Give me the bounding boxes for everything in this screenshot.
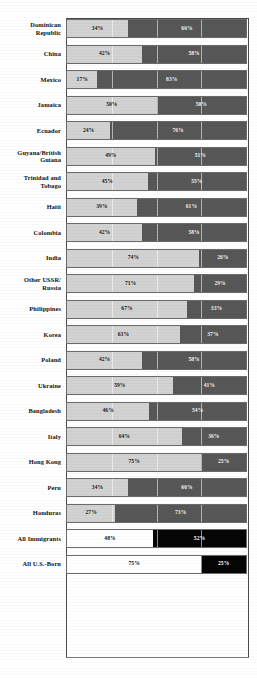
bar-segment-left-value: 17% <box>77 77 88 83</box>
row-label-line: Other USSR/ <box>0 276 61 284</box>
stacked-bar: 45%55% <box>66 172 247 191</box>
bar-segment-right-value: 73% <box>175 510 186 516</box>
axis-baseline <box>66 657 249 658</box>
bar-segment-right-value: 66% <box>181 26 192 32</box>
row-label-line: Dominican <box>0 21 61 29</box>
bar-segment-right: 55% <box>148 173 246 190</box>
bar-segment-left: 34% <box>67 20 128 37</box>
row-label-line: Honduras <box>0 509 61 517</box>
row-label: Colombia <box>0 229 66 237</box>
stacked-bar: 59%41% <box>66 376 247 395</box>
row-label-line: Philippines <box>0 305 61 313</box>
row-label-line: Tobago <box>0 182 61 190</box>
bar-segment-right-value: 36% <box>208 434 219 440</box>
chart-row: Ecuador24%76% <box>0 118 257 144</box>
chart-row: Italy64%36% <box>0 424 257 450</box>
chart-row: Bangladesh46%54% <box>0 399 257 425</box>
bar-segment-left: 49% <box>67 148 155 165</box>
stacked-bar: 42%58% <box>66 45 247 64</box>
stacked-bar: 50%50% <box>66 96 247 115</box>
bar-segment-right-value: 29% <box>214 281 225 287</box>
bar-segment-left: 42% <box>67 352 142 369</box>
row-label-line: Russia <box>0 284 61 292</box>
stacked-bar: 49%51% <box>66 147 247 166</box>
bar-segment-left-value: 42% <box>99 230 110 236</box>
row-label-line: Poland <box>0 356 61 364</box>
row-label: Peru <box>0 484 66 492</box>
bar-segment-left-value: 63% <box>118 332 129 338</box>
bar-segment-left: 34% <box>67 479 128 496</box>
row-label-line: Peru <box>0 484 61 492</box>
bar-segment-right-value: 83% <box>166 77 177 83</box>
chart-row: Other USSR/Russia71%29% <box>0 271 257 297</box>
bar-segment-left-value: 71% <box>125 281 136 287</box>
bar-segment-right: 33% <box>187 301 246 318</box>
bar-segment-right: 26% <box>199 250 246 267</box>
bar-segment-left-value: 45% <box>102 179 113 185</box>
row-label-line: Italy <box>0 433 61 441</box>
bar-segment-left: 74% <box>67 250 199 267</box>
chart-row: Korea63%37% <box>0 322 257 348</box>
bar-segment-left-value: 39% <box>96 204 107 210</box>
chart-row: Mexico17%83% <box>0 67 257 93</box>
chart-row: Philippines67%33% <box>0 297 257 323</box>
row-label: Jamaica <box>0 101 66 109</box>
stacked-bar: 42%58% <box>66 223 247 242</box>
row-label: Haiti <box>0 203 66 211</box>
row-label: DominicanRepublic <box>0 21 66 36</box>
bar-segment-right: 25% <box>201 556 246 573</box>
row-label: Other USSR/Russia <box>0 276 66 291</box>
bar-segment-right: 50% <box>157 97 247 114</box>
bar-segment-right-value: 26% <box>217 255 228 261</box>
chart-row: Jamaica50%50% <box>0 93 257 119</box>
bar-segment-left: 24% <box>67 122 110 139</box>
chart-row: Poland42%58% <box>0 348 257 374</box>
bar-segment-left-value: 27% <box>86 510 97 516</box>
bar-segment-right: 66% <box>128 479 246 496</box>
row-label-line: Republic <box>0 29 61 37</box>
stacked-bar: 74%26% <box>66 249 247 268</box>
stacked-bar-chart: DominicanRepublic34%66%China42%58%Mexico… <box>0 0 257 678</box>
bar-segment-right: 25% <box>201 454 246 471</box>
bar-segment-right: 66% <box>128 20 246 37</box>
bar-segment-left: 63% <box>67 326 180 343</box>
row-label: Italy <box>0 433 66 441</box>
row-label: Korea <box>0 331 66 339</box>
row-label-line: China <box>0 50 61 58</box>
bar-segment-right: 76% <box>110 122 246 139</box>
row-label-line: Ukraine <box>0 382 61 390</box>
chart-rows: DominicanRepublic34%66%China42%58%Mexico… <box>0 16 257 577</box>
bar-segment-left-value: 67% <box>121 306 132 312</box>
chart-row: China42%58% <box>0 42 257 68</box>
stacked-bar: 39%61% <box>66 198 247 217</box>
stacked-bar: 17%83% <box>66 70 247 89</box>
row-label-line: India <box>0 254 61 262</box>
bar-segment-left-value: 42% <box>99 51 110 57</box>
bar-segment-left-value: 59% <box>114 383 125 389</box>
bar-segment-right: 37% <box>180 326 246 343</box>
stacked-bar: 64%36% <box>66 427 247 446</box>
chart-row: All U.S.-Born75%25% <box>0 552 257 578</box>
bar-segment-right-value: 54% <box>192 408 203 414</box>
row-label: Honduras <box>0 509 66 517</box>
bar-segment-right-value: 58% <box>188 357 199 363</box>
stacked-bar: 75%25% <box>66 555 247 574</box>
chart-row: Haiti39%61% <box>0 195 257 221</box>
bar-segment-left: 75% <box>67 454 201 471</box>
bar-segment-right: 58% <box>142 224 246 241</box>
bar-segment-right-value: 41% <box>204 383 215 389</box>
row-label-line: Hong Kong <box>0 458 61 466</box>
bar-segment-right: 36% <box>182 428 246 445</box>
bar-segment-right: 58% <box>142 352 246 369</box>
bar-segment-left-value: 42% <box>99 357 110 363</box>
chart-row: Trinidad andTobago45%55% <box>0 169 257 195</box>
row-label-line: Bangladesh <box>0 407 61 415</box>
bar-segment-left: 42% <box>67 46 142 63</box>
chart-row: Honduras27%73% <box>0 501 257 527</box>
row-label-line: Haiti <box>0 203 61 211</box>
chart-row: Peru34%66% <box>0 475 257 501</box>
bar-segment-left-value: 46% <box>103 408 114 414</box>
bar-segment-right-value: 61% <box>186 204 197 210</box>
row-label: Poland <box>0 356 66 364</box>
bar-segment-left: 48% <box>67 530 153 547</box>
